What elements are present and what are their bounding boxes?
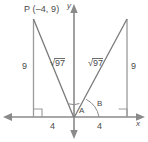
point-label-p: P (–4, 9) <box>24 5 59 14</box>
right-base-length-label: 4 <box>97 122 102 131</box>
right-angle-mark-left <box>34 109 43 117</box>
y-axis-label: y <box>67 2 71 10</box>
x-axis-label: x <box>136 120 140 128</box>
left-triangle <box>34 19 74 117</box>
angle-label-b: B <box>97 100 102 108</box>
left-base-length-label: 4 <box>50 122 55 131</box>
y-axis-top-arrow-icon <box>70 4 77 13</box>
left-leg-length-label: 9 <box>22 62 27 71</box>
right-angle-mark-right <box>119 109 127 117</box>
x-axis-left-arrow-icon <box>3 113 12 121</box>
left-hypotenuse <box>34 19 74 117</box>
radical-sign-icon: √ <box>88 59 93 68</box>
right-leg-length-label: 9 <box>131 62 136 71</box>
figure-canvas <box>0 0 148 142</box>
geometry-figure: P (–4, 9) 9 9 4 4 √97 √97 A B x y <box>0 0 148 142</box>
y-axis-bottom-arrow-icon <box>70 130 77 139</box>
right-radicand-value: 97 <box>92 58 103 68</box>
radical-sign-icon: √ <box>50 59 55 68</box>
left-radicand-value: 97 <box>54 58 65 68</box>
angle-label-a: A <box>79 107 84 115</box>
left-hypotenuse-radical-label: √97 <box>50 58 65 68</box>
right-hypotenuse-radical-label: √97 <box>88 58 103 68</box>
